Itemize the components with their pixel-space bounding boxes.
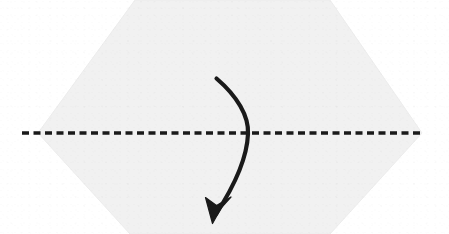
diagram-canvas [0,0,449,234]
origami-diagram: An origami instruction diagram: a light … [0,0,449,234]
